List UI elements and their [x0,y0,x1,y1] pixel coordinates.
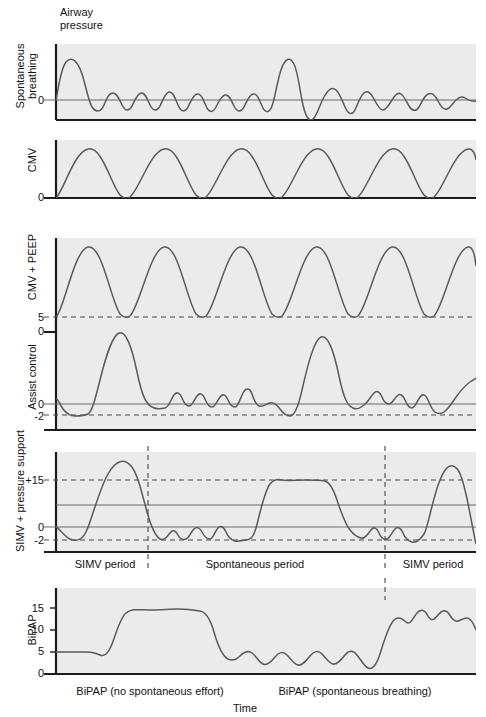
panel-cmv-peep [44,238,476,332]
panel-simv-ps [44,446,476,572]
panel-assist-control [44,320,476,430]
panel-bg-simv [56,452,476,552]
panel-spontaneous [44,44,476,120]
panel-bg-cmv [56,140,476,198]
waveform-canvas [0,0,486,717]
ventilator-waveform-figure: Airway pressure Spontaneous breathing CM… [0,0,486,717]
panel-bg-bipap [56,588,476,674]
panel-cmv [44,140,476,198]
panel-bipap [44,578,476,674]
panel-bg-assist-2 [56,320,476,430]
panel-bg-spontaneous [56,44,476,120]
